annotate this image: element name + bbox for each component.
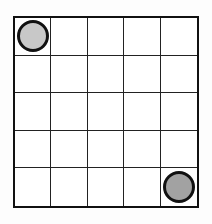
grid-cell-r4-c3[interactable] xyxy=(124,168,160,206)
grid-cell-r4-c4[interactable] xyxy=(161,168,197,206)
grid-cell-r1-c4[interactable] xyxy=(161,56,197,94)
grid-cell-r2-c0[interactable] xyxy=(15,93,51,131)
grid-cell-r0-c2[interactable] xyxy=(88,18,124,56)
grid-cell-r4-c1[interactable] xyxy=(51,168,87,206)
grid-cell-r2-c3[interactable] xyxy=(124,93,160,131)
token-light[interactable] xyxy=(17,20,49,52)
grid-cell-r4-c2[interactable] xyxy=(88,168,124,206)
grid-cell-r2-c1[interactable] xyxy=(51,93,87,131)
grid-cell-r3-c3[interactable] xyxy=(124,131,160,169)
canvas xyxy=(0,0,212,224)
grid-cell-r1-c2[interactable] xyxy=(88,56,124,94)
grid-cell-r3-c1[interactable] xyxy=(51,131,87,169)
grid-cell-r2-c4[interactable] xyxy=(161,93,197,131)
grid-cell-r0-c0[interactable] xyxy=(15,18,51,56)
grid-cell-r3-c4[interactable] xyxy=(161,131,197,169)
grid-cell-r0-c4[interactable] xyxy=(161,18,197,56)
grid-cell-r1-c3[interactable] xyxy=(124,56,160,94)
grid-cell-r0-c3[interactable] xyxy=(124,18,160,56)
game-grid xyxy=(13,16,199,208)
grid-cell-r0-c1[interactable] xyxy=(51,18,87,56)
grid-cell-r4-c0[interactable] xyxy=(15,168,51,206)
grid-cell-r1-c0[interactable] xyxy=(15,56,51,94)
grid-cell-r3-c0[interactable] xyxy=(15,131,51,169)
token-dark[interactable] xyxy=(163,171,195,203)
grid-cell-r2-c2[interactable] xyxy=(88,93,124,131)
grid-cell-r1-c1[interactable] xyxy=(51,56,87,94)
grid-cell-r3-c2[interactable] xyxy=(88,131,124,169)
